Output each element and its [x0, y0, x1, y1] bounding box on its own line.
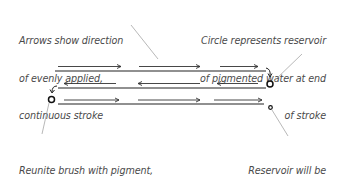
leader-line-arrows: [131, 25, 158, 59]
stroke-base-lines: [55, 71, 266, 104]
reservoir-small-circle-icon: [269, 106, 273, 110]
reservoir-circle-icon: [49, 97, 55, 103]
turn-arrows: [50, 68, 272, 93]
curved-arrow-down-right-icon: [266, 68, 270, 76]
brush-stroke-diagram: [0, 0, 344, 194]
direction-arrows-row-3: [64, 98, 262, 102]
reservoir-circle-icon: [267, 81, 273, 87]
direction-arrows-row-1: [58, 65, 258, 69]
curved-arrow-down-left-icon: [52, 86, 57, 92]
leader-line-circle: [274, 54, 302, 81]
leader-line-reunite: [42, 103, 49, 134]
reservoirs: [49, 81, 274, 109]
leader-lines: [42, 25, 302, 136]
direction-arrows-row-2: [64, 82, 258, 86]
leader-line-reservoir: [272, 110, 288, 136]
